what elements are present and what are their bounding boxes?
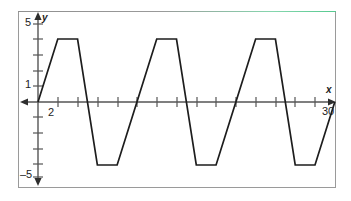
y-axis-arrow-up-icon [34, 12, 41, 20]
y-tick-label-minus-5: –5 [20, 169, 32, 180]
graph-figure: 5 1 –5 2 30 y x [0, 0, 351, 201]
x-tick-label-2: 2 [48, 107, 54, 118]
x-tick-label-30: 30 [322, 106, 334, 117]
x-axis-name-label: x [326, 84, 332, 95]
graph-canvas [0, 0, 351, 201]
y-axis-name-label: y [42, 12, 48, 23]
y-tick-label-1: 1 [25, 79, 31, 90]
x-axis-arrow-left-icon [20, 98, 28, 105]
y-axis-arrow-down-icon [34, 178, 41, 186]
y-tick-label-5: 5 [25, 17, 31, 28]
axes-group [20, 12, 336, 186]
